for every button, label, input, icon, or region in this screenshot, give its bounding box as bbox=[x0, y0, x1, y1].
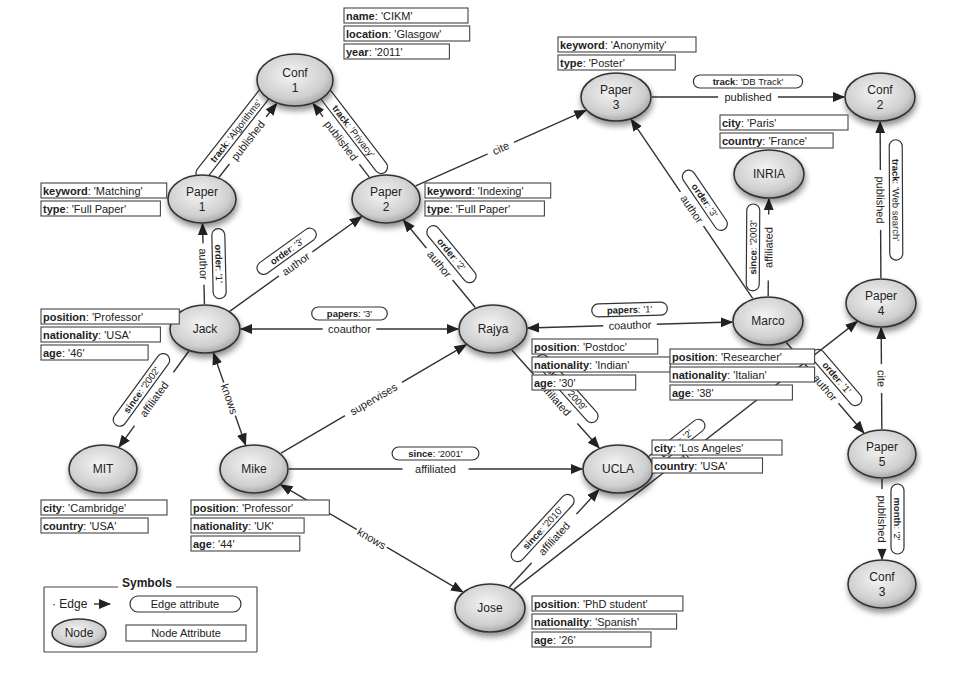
attribute-keyword: keyword: 'Indexing' bbox=[427, 185, 524, 197]
edge-label: affiliated bbox=[415, 463, 456, 475]
attribute-type: type: 'Full Paper' bbox=[427, 203, 510, 215]
legend-title: Symbols bbox=[122, 576, 172, 590]
attribute-position: position: 'PhD student' bbox=[534, 598, 648, 610]
edge-affiliated[interactable]: affiliatedsince: '2003' bbox=[746, 199, 775, 296]
node-label: Paper bbox=[865, 289, 897, 303]
node-label: 3 bbox=[879, 585, 886, 599]
node-paper5[interactable]: Paper5 bbox=[848, 430, 916, 478]
edge-attribute: track: 'Web search' bbox=[889, 140, 903, 260]
node-inria[interactable]: INRIA bbox=[734, 150, 804, 198]
node-mike[interactable]: Mike bbox=[220, 445, 288, 493]
attribute-city: city: 'Cambridge' bbox=[43, 502, 126, 514]
node-label: 3 bbox=[613, 98, 620, 112]
svg-text:month: '2': month: '2' bbox=[892, 497, 903, 540]
node-marco[interactable]: Marco bbox=[733, 297, 803, 345]
svg-text:track: 'Web search': track: 'Web search' bbox=[890, 159, 901, 241]
edge-author[interactable]: authororder: '1' bbox=[197, 224, 227, 304]
edge-affiliated[interactable]: affiliatedsince: '2010' bbox=[508, 490, 598, 587]
node-label: MIT bbox=[93, 462, 114, 476]
attribute-position: position: 'Professor' bbox=[193, 502, 293, 514]
node-label: INRIA bbox=[753, 167, 785, 181]
edge-author[interactable]: authororder: '2' bbox=[404, 221, 479, 308]
node-ucla[interactable]: UCLA bbox=[583, 445, 653, 493]
edge-cite[interactable]: cite bbox=[875, 328, 888, 429]
edge-supervises[interactable]: supervises bbox=[281, 345, 466, 453]
legend-node-label: Node bbox=[65, 626, 94, 640]
edge-published[interactable]: publishedtrack: 'Web search' bbox=[874, 122, 903, 278]
edge-label: author bbox=[197, 248, 210, 280]
attribute-nationality: nationality: 'UK' bbox=[193, 520, 274, 532]
attribute-country: country: 'USA' bbox=[654, 460, 727, 472]
edge-label: published bbox=[876, 495, 888, 542]
edge-label: knows bbox=[355, 525, 388, 551]
edge-cite[interactable]: cite bbox=[416, 110, 586, 185]
edge-coauthor[interactable]: coauthorpapers: '3' bbox=[241, 307, 458, 335]
node-attributes-mike: position: 'Professor'nationality: 'UK'ag… bbox=[191, 500, 329, 551]
node-mit[interactable]: MIT bbox=[69, 445, 137, 493]
node-conf2[interactable]: Conf2 bbox=[845, 73, 915, 121]
attribute-type: type: 'Poster' bbox=[560, 57, 625, 69]
node-label: 2 bbox=[877, 98, 884, 112]
node-label: Rajya bbox=[478, 322, 509, 336]
node-attributes-conf1: name: 'CIKM'location: 'Glasgow'year: '20… bbox=[344, 8, 470, 59]
attribute-type: type: 'Full Paper' bbox=[43, 203, 126, 215]
edge-attribute: papers: '3' bbox=[312, 307, 388, 320]
attribute-country: country: 'France' bbox=[722, 135, 807, 147]
edge-attribute: since: '2001' bbox=[392, 447, 479, 460]
node-attributes-layer: name: 'CIKM'location: 'Glasgow'year: '20… bbox=[41, 8, 848, 647]
attribute-age: age: '26' bbox=[534, 634, 576, 646]
edge-affiliated[interactable]: affiliatedsince: '2002' bbox=[111, 351, 189, 447]
svg-text:order: '1': order: '1' bbox=[213, 244, 225, 283]
attribute-name: name: 'CIKM' bbox=[346, 10, 413, 22]
node-label: 5 bbox=[879, 455, 886, 469]
edge-label: supervises bbox=[348, 380, 400, 417]
edge-knows[interactable]: knows bbox=[213, 353, 245, 444]
attribute-position: position: 'Postdoc' bbox=[534, 341, 627, 353]
node-attributes-inria: city: 'Paris'country: 'France' bbox=[720, 115, 848, 148]
node-attributes-paper2: keyword: 'Indexing'type: 'Full Paper' bbox=[425, 183, 551, 216]
edge-affiliated[interactable]: affiliatedsince: '2001' bbox=[289, 447, 582, 475]
node-rajya[interactable]: Rajya bbox=[459, 305, 527, 353]
node-jack[interactable]: Jack bbox=[170, 305, 240, 353]
edge-attribute: since: '2003' bbox=[746, 204, 760, 291]
attribute-age: age: '46' bbox=[43, 347, 85, 359]
node-jose[interactable]: Jose bbox=[455, 584, 525, 632]
legend: Symbols · Edge Edge attribute Node Node … bbox=[44, 576, 257, 652]
node-attributes-rajya: position: 'Postdoc'nationality: 'Indian'… bbox=[532, 339, 670, 390]
edge-label: coauthor bbox=[328, 323, 371, 335]
attribute-age: age: '30' bbox=[534, 377, 576, 389]
edge-attribute: papers: '1' bbox=[592, 302, 668, 317]
edge-published[interactable]: publishedmonth: '2' bbox=[876, 479, 904, 559]
edge-label: published bbox=[724, 91, 771, 103]
edge-label: affiliated bbox=[762, 227, 774, 268]
node-label: 2 bbox=[383, 200, 390, 214]
node-label: Paper bbox=[600, 83, 632, 97]
edge-published[interactable]: publishedtrack: 'DB Track' bbox=[652, 75, 844, 103]
attribute-nationality: nationality: 'Spanish' bbox=[534, 616, 639, 628]
edge-label: coauthor bbox=[608, 318, 651, 331]
node-attributes-jack: position: 'Professor'nationality: 'USA'a… bbox=[41, 309, 179, 360]
node-label: Paper bbox=[866, 440, 898, 454]
edge-author[interactable]: authororder: '3' bbox=[230, 217, 361, 311]
attribute-keyword: keyword: 'Matching' bbox=[43, 185, 143, 197]
edge-coauthor[interactable]: coauthorpapers: '1' bbox=[528, 302, 732, 332]
node-label: Mike bbox=[241, 462, 267, 476]
legend-node-attribute-label: Node Attribute bbox=[151, 627, 221, 639]
node-paper2[interactable]: Paper2 bbox=[352, 175, 420, 223]
attribute-nationality: nationality: 'Italian' bbox=[672, 369, 767, 381]
node-paper1[interactable]: Paper1 bbox=[168, 175, 236, 223]
node-conf3[interactable]: Conf3 bbox=[848, 560, 916, 608]
attribute-position: position: 'Researcher' bbox=[672, 351, 782, 363]
node-paper3[interactable]: Paper3 bbox=[581, 73, 651, 121]
attribute-city: city: 'Paris' bbox=[722, 117, 776, 129]
node-attributes-jose: position: 'PhD student'nationality: 'Spa… bbox=[532, 596, 683, 647]
attribute-city: city: 'Los Angeles' bbox=[654, 442, 743, 454]
node-paper4[interactable]: Paper4 bbox=[846, 279, 916, 327]
legend-edge-attribute-label: Edge attribute bbox=[151, 598, 220, 610]
node-label: Paper bbox=[186, 185, 218, 199]
svg-text:papers: '3': papers: '3' bbox=[327, 308, 373, 319]
node-conf1[interactable]: Conf1 bbox=[257, 54, 333, 106]
edge-attribute: month: '2' bbox=[891, 484, 904, 554]
graph-diagram: publishedtrack: 'Algorithms'publishedtra… bbox=[0, 0, 956, 690]
node-label: 1 bbox=[199, 200, 206, 214]
